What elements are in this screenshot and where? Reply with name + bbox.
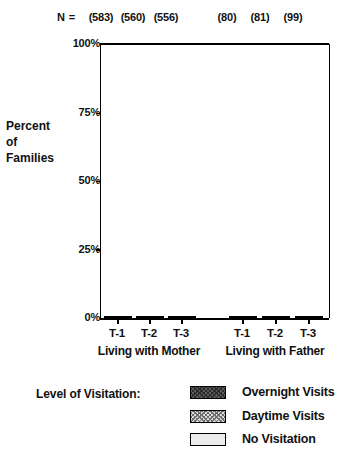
- y-tick-label-75: 75%: [56, 106, 100, 118]
- legend-swatch-daytime-visits: [190, 410, 226, 423]
- x-tick-mark: [117, 319, 119, 324]
- y-tick-label-50: 50%: [56, 174, 100, 186]
- plot-area: [100, 44, 330, 318]
- x-tick-mark: [308, 319, 310, 324]
- x-tick-mark: [242, 319, 244, 324]
- x-tick-mark: [149, 319, 151, 324]
- legend-swatch-overnight-visits: [190, 386, 226, 399]
- plot-bottom-border: [100, 318, 329, 320]
- y-tick-label-0: 0%: [56, 311, 100, 323]
- x-tick-mark: [181, 319, 183, 324]
- y-axis: 100% 75% 50% 25% 0%: [50, 0, 100, 444]
- x-tick-mark: [275, 319, 277, 324]
- x-tick-label-mother-t3: T-3: [159, 327, 203, 339]
- legend-title: Level of Visitation:: [36, 387, 140, 401]
- legend-swatch-no-visitation: [190, 433, 226, 446]
- sample-size-value: (556): [146, 11, 186, 23]
- x-group-label-mother: Living with Mother: [89, 344, 209, 358]
- x-group-label-father: Living with Father: [215, 344, 335, 358]
- y-tick-label-25: 25%: [56, 243, 100, 255]
- legend-label-no-visitation: No Visitation: [242, 432, 316, 446]
- sample-size-value: (99): [273, 11, 313, 23]
- x-tick-label-father-t3: T-3: [286, 327, 330, 339]
- legend-label-daytime-visits: Daytime Visits: [242, 409, 324, 423]
- legend-label-overnight-visits: Overnight Visits: [242, 385, 334, 399]
- y-tick-label-100: 100%: [56, 37, 100, 49]
